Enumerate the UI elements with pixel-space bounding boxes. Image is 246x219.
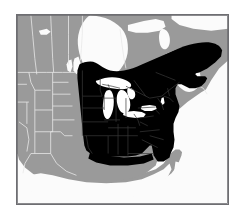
map-frame: North America: [16, 14, 229, 205]
range-map-figure: North America: [0, 0, 246, 219]
map-canvas: [17, 15, 228, 204]
